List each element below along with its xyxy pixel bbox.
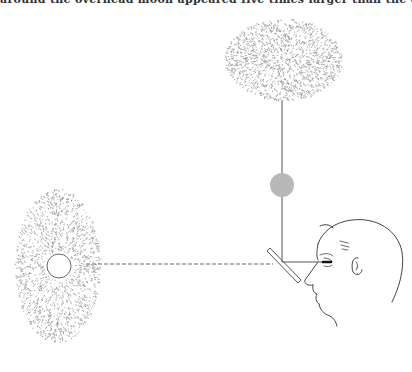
stipple-mark [297,54,299,55]
stipple-mark [87,216,88,217]
stipple-mark [25,219,26,220]
stipple-mark [240,77,241,78]
stipple-mark [253,39,254,40]
stipple-mark [316,82,317,83]
stipple-mark [277,62,279,63]
stipple-mark [271,46,272,47]
stipple-mark [289,87,290,89]
stipple-mark [289,75,290,77]
stipple-mark [42,235,43,236]
stipple-mark [83,240,85,241]
stipple-mark [90,227,91,228]
stipple-mark [329,47,331,48]
stipple-mark [43,288,44,289]
stipple-mark [66,209,67,210]
stipple-mark [312,95,313,96]
stipple-mark [339,54,340,55]
stipple-mark [338,69,339,70]
stipple-mark [253,44,255,45]
stipple-mark [277,95,278,97]
stipple-mark [247,28,248,29]
stipple-mark [96,240,97,241]
stipple-mark [339,71,341,72]
stipple-mark [316,28,317,29]
stipple-mark [92,221,93,222]
stipple-mark [293,85,294,87]
stipple-mark [78,236,79,237]
stipple-mark [70,301,71,303]
stipple-mark [25,244,26,245]
stipple-mark [35,321,36,323]
stipple-mark [61,342,62,344]
stipple-mark [316,33,317,35]
stipple-mark [274,51,275,52]
stipple-mark [294,86,295,87]
stipple-mark [56,324,57,326]
stipple-mark [36,311,37,312]
stipple-mark [21,234,23,235]
stipple-mark [238,40,240,41]
stipple-mark [68,325,69,326]
stipple-mark [80,239,82,240]
stipple-mark [38,311,39,312]
stipple-mark [303,31,304,32]
stipple-mark [228,56,229,57]
stipple-mark [255,87,256,89]
stipple-mark [40,217,41,218]
stipple-mark [67,202,68,203]
stipple-mark [271,32,272,33]
stipple-mark [74,331,75,332]
stipple-mark [85,257,86,258]
stipple-mark [233,52,235,53]
stipple-mark [319,83,320,85]
stipple-mark [52,197,53,199]
stipple-mark [70,282,71,284]
stipple-mark [321,55,323,56]
moon-illusion-figure [0,0,412,372]
stipple-mark [243,74,244,75]
stipple-mark [49,336,50,337]
stipple-mark [311,37,312,38]
stipple-mark [263,58,265,59]
stipple-mark [261,81,262,82]
stipple-mark [254,38,255,40]
stipple-mark [319,86,320,87]
stipple-mark [28,274,29,275]
stipple-mark [67,290,68,291]
stipple-mark [62,249,63,250]
stipple-mark [90,226,91,227]
stipple-mark [326,45,328,46]
stipple-mark [83,282,85,283]
stipple-mark [32,309,33,310]
stipple-mark [65,289,66,290]
stipple-mark [66,242,67,244]
stipple-mark [29,303,30,304]
stipple-mark [261,35,262,36]
stipple-mark [46,289,48,290]
stipple-mark [37,280,39,281]
stipple-mark [50,202,51,203]
stipple-mark [41,334,42,335]
stipple-mark [307,90,308,91]
stipple-mark [337,76,338,77]
stipple-mark [282,61,283,62]
stipple-mark [34,239,36,240]
stipple-mark [68,321,69,322]
stipple-mark [329,78,331,79]
stipple-mark [250,74,252,75]
stipple-mark [327,39,328,40]
stipple-mark [45,281,46,282]
stipple-mark [87,233,89,234]
stipple-mark [237,60,238,61]
stipple-mark [82,216,83,218]
stipple-mark [301,47,302,48]
stipple-mark [87,317,88,318]
stipple-mark [270,25,271,26]
stipple-mark [263,36,264,37]
stipple-mark [255,70,256,71]
stipple-mark [284,73,285,75]
stipple-mark [24,231,26,232]
stipple-mark [268,49,270,50]
stipple-mark [252,67,254,68]
stipple-mark [75,312,76,313]
